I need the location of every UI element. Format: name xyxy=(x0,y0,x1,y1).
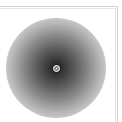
frame-right-inner-border xyxy=(115,8,116,122)
gradient-canvas[interactable] xyxy=(0,9,115,122)
center-handle[interactable] xyxy=(53,65,60,72)
frame-right-border xyxy=(117,6,118,122)
frame-top-border xyxy=(0,6,118,7)
crosshair-icon xyxy=(56,68,57,69)
